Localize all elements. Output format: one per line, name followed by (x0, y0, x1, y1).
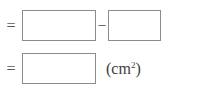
answer-box-minuend[interactable] (22, 10, 96, 41)
equation-worksheet: = − = (cm2) (0, 0, 210, 90)
answer-box-result[interactable] (22, 53, 96, 84)
unit-label: (cm2) (96, 61, 141, 77)
minus-sign: − (96, 18, 108, 34)
equals-sign-row-2: = (0, 61, 22, 77)
equation-row-result: = (cm2) (0, 53, 141, 84)
unit-label-close: ) (135, 60, 140, 77)
equals-sign-row-1: = (0, 18, 22, 34)
answer-box-subtrahend[interactable] (108, 10, 161, 41)
unit-label-open: (cm (106, 60, 131, 77)
equation-row-subtraction: = − (0, 10, 161, 41)
